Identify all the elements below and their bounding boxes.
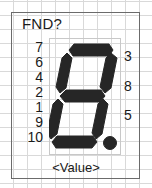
segment-f-icon	[56, 53, 72, 93]
fnd-symbol-canvas: FND? 7 6 4 2 1 9 10 3 8 5 <Value>	[0, 0, 152, 188]
decimal-point-icon	[104, 137, 117, 150]
value-placeholder-label: <Value>	[0, 160, 152, 175]
seven-segment-glyph	[49, 36, 125, 156]
segment-c-icon	[92, 99, 108, 139]
component-designator-label: FND?	[22, 15, 62, 32]
pin-label-left-5: 1	[13, 100, 43, 114]
segment-b-icon	[100, 53, 117, 93]
pin-label-right-3: 5	[124, 108, 148, 122]
pin-label-left-3: 4	[13, 70, 43, 84]
pin-label-left-1: 7	[13, 40, 43, 54]
segment-d-icon	[52, 136, 97, 148]
pin-label-right-2: 8	[124, 79, 148, 93]
segment-g-icon	[60, 90, 105, 102]
pin-label-left-2: 6	[13, 55, 43, 69]
pin-label-left-7: 10	[13, 130, 43, 144]
pin-label-right-1: 3	[124, 49, 148, 63]
segment-a-icon	[69, 44, 113, 56]
pin-label-left-6: 9	[13, 115, 43, 129]
segment-e-icon	[49, 99, 63, 139]
pin-label-left-4: 2	[13, 85, 43, 99]
